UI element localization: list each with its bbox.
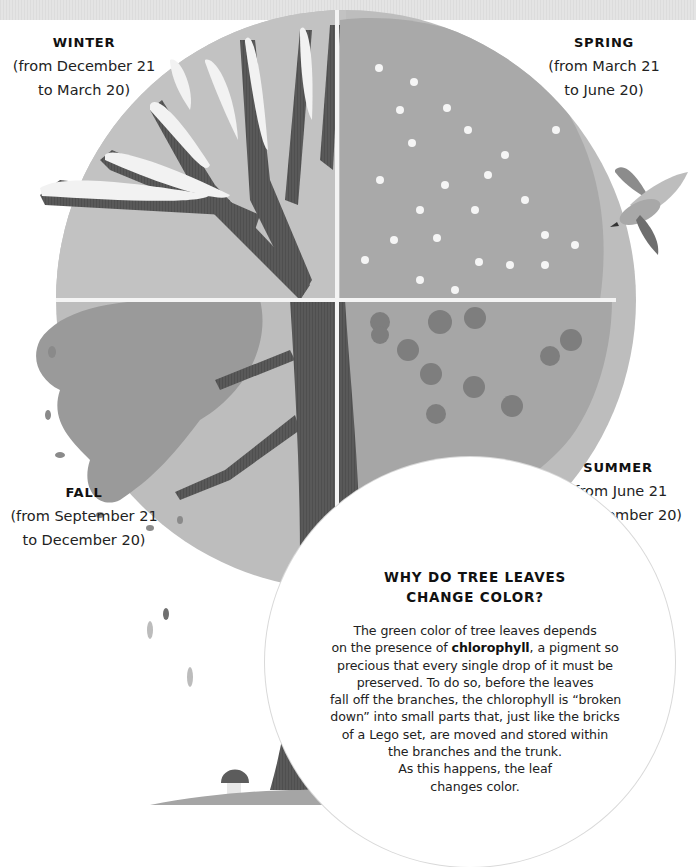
season-range: (from December 21 [0, 54, 168, 78]
season-range: to March 20) [0, 78, 168, 102]
info-body-line: precious that every single drop of it mu… [330, 657, 620, 674]
season-range: (from March 21 [512, 54, 696, 78]
info-body-line: changes color. [330, 778, 620, 795]
info-body-line: As this happens, the leaf [330, 760, 620, 777]
info-body-line: on the presence of chlorophyll, a pigmen… [330, 639, 620, 656]
season-range: to June 20) [512, 78, 696, 102]
info-body: The green color of tree leaves depends o… [330, 622, 620, 795]
season-title: FALL [0, 482, 168, 504]
season-title: SPRING [512, 32, 696, 54]
text: , a pigment so [530, 640, 619, 655]
season-range: to December 20) [0, 528, 168, 552]
vertical-divider [335, 10, 339, 530]
info-body-line: fall off the branches, the chlorophyll i… [330, 691, 620, 708]
horizontal-divider [56, 298, 616, 302]
info-title-line: CHANGE COLOR? [340, 587, 610, 607]
info-body-line: The green color of tree leaves depends [330, 622, 620, 639]
season-label-spring: SPRING (from March 21 to June 20) [512, 32, 696, 102]
season-title: SUMMER [540, 457, 696, 479]
info-title: WHY DO TREE LEAVES CHANGE COLOR? [340, 567, 610, 607]
info-body-line: preserved. To do so, before the leaves [330, 674, 620, 691]
info-body-line: down” into small parts that, just like t… [330, 708, 620, 725]
season-label-winter: WINTER (from December 21 to March 20) [0, 32, 168, 102]
text: on the presence of [331, 640, 451, 655]
season-range: (from September 21 [0, 504, 168, 528]
season-label-fall: FALL (from September 21 to December 20) [0, 482, 168, 552]
info-body-line: the branches and the trunk. [330, 743, 620, 760]
falling-leaves [147, 608, 193, 687]
season-title: WINTER [0, 32, 168, 54]
chlorophyll-term: chlorophyll [452, 640, 530, 655]
info-title-line: WHY DO TREE LEAVES [340, 567, 610, 587]
info-body-line: of a Lego set, are moved and stored with… [330, 726, 620, 743]
